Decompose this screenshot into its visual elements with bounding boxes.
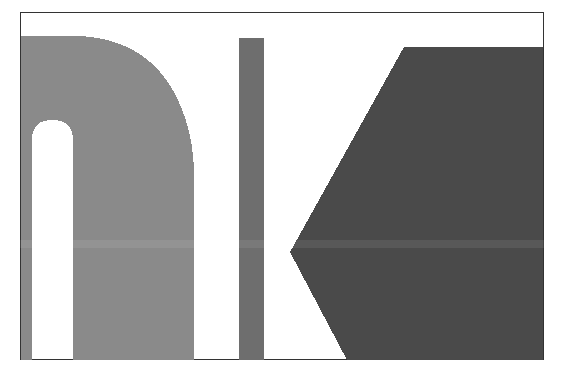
vertical-bar [239, 38, 264, 360]
wedge-shape [290, 47, 543, 360]
arch-shape [21, 36, 194, 360]
glyph-canvas [0, 0, 561, 374]
